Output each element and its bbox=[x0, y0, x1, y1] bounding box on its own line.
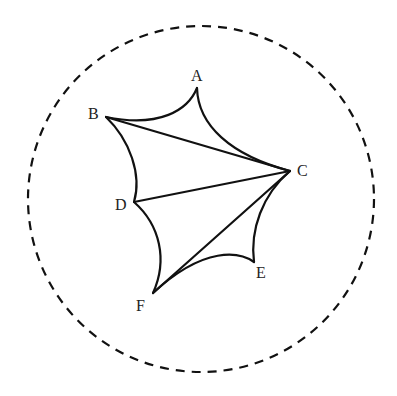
label-C: C bbox=[297, 162, 308, 179]
label-F: F bbox=[136, 297, 145, 314]
arc-C-E bbox=[253, 171, 290, 262]
arc-D-F bbox=[134, 202, 161, 293]
label-E: E bbox=[256, 264, 266, 281]
geometry-diagram: A B C D E F bbox=[0, 0, 397, 396]
arc-A-B bbox=[106, 88, 197, 120]
arc-A-C bbox=[197, 88, 290, 171]
arc-B-D bbox=[106, 117, 136, 202]
label-B: B bbox=[88, 105, 99, 122]
arc-E-F bbox=[153, 255, 254, 293]
label-D: D bbox=[115, 196, 127, 213]
segment-F-C bbox=[153, 171, 290, 293]
label-A: A bbox=[191, 67, 203, 84]
